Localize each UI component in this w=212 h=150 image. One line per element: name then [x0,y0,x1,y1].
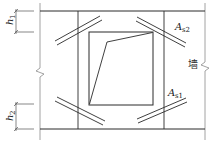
h2-dimension [14,102,34,131]
left-wall-boundary [36,3,44,140]
As1-label: A s1 [167,87,183,100]
h1-dimension [14,9,34,34]
reinforcement-diagram: h 1 h 2 A s2 A s1 墙 [0,0,212,150]
wall-label: 墙 [188,58,198,70]
svg-text:A: A [174,21,182,32]
h1-label: h 1 [4,15,17,25]
crack-polyline [90,33,153,105]
svg-text:s2: s2 [182,26,190,34]
right-wall-boundary [201,3,209,140]
svg-text:2: 2 [9,111,17,115]
diagonal-bars-top-left [55,16,102,45]
svg-text:1: 1 [9,15,17,19]
diagonal-bars-bottom-left [55,97,105,125]
h2-label: h 2 [4,111,17,121]
opening-rectangle [89,32,153,105]
svg-text:A: A [167,87,175,98]
svg-text:s1: s1 [175,92,183,100]
As2-label: A s2 [174,21,190,34]
diagonal-bars-bottom-right [137,98,187,123]
